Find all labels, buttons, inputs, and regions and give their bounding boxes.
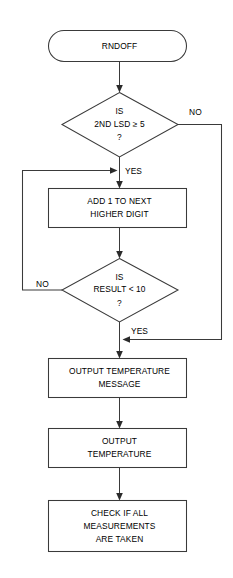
edge-label-lsd-yes: YES bbox=[125, 166, 142, 176]
node-process-add-line1: ADD 1 TO NEXT bbox=[87, 196, 151, 206]
edge-temp-to-check bbox=[116, 468, 123, 501]
node-start-label: RNDOFF bbox=[102, 41, 138, 51]
node-process-msg-line2: MESSAGE bbox=[98, 379, 140, 389]
node-process-check-line1: CHECK IF ALL bbox=[91, 508, 148, 518]
node-process-msg[interactable]: OUTPUT TEMPERATURE MESSAGE bbox=[49, 359, 187, 398]
flowchart-svg: RNDOFF IS 2ND LSD ≥ 5 ? NO YES ADD 1 TO … bbox=[0, 0, 233, 578]
node-process-add-line2: HIGHER DIGIT bbox=[90, 209, 148, 219]
edge-label-lsd-no: NO bbox=[189, 107, 202, 117]
edge-add-to-result bbox=[116, 228, 123, 259]
node-process-check-line2: MEASUREMENTS bbox=[84, 521, 156, 531]
edge-start-to-decision-lsd bbox=[116, 62, 123, 93]
node-process-temp-line1: OUTPUT bbox=[102, 436, 137, 446]
node-decision-result-line1: IS bbox=[115, 272, 123, 282]
flowchart-canvas: RNDOFF IS 2ND LSD ≥ 5 ? NO YES ADD 1 TO … bbox=[0, 0, 233, 578]
edge-label-result-yes: YES bbox=[131, 326, 148, 336]
edge-lsd-yes bbox=[116, 157, 123, 189]
node-process-add[interactable]: ADD 1 TO NEXT HIGHER DIGIT bbox=[49, 189, 187, 228]
node-decision-result-line3: ? bbox=[117, 298, 122, 308]
edge-label-result-no: NO bbox=[36, 279, 49, 289]
node-decision-result-line2: RESULT < 10 bbox=[93, 284, 145, 294]
node-decision-lsd-line2: 2ND LSD ≥ 5 bbox=[94, 119, 145, 129]
node-decision-lsd[interactable]: IS 2ND LSD ≥ 5 ? bbox=[62, 93, 178, 158]
node-start-terminator[interactable]: RNDOFF bbox=[49, 31, 187, 62]
node-decision-result[interactable]: IS RESULT < 10 ? bbox=[62, 259, 178, 323]
edge-result-yes bbox=[116, 322, 123, 359]
node-decision-lsd-line3: ? bbox=[117, 132, 122, 142]
node-process-temp-line2: TEMPERATURE bbox=[88, 449, 152, 459]
node-process-msg-line1: OUTPUT TEMPERATURE bbox=[69, 366, 170, 376]
node-process-check[interactable]: CHECK IF ALL MEASUREMENTS ARE TAKEN bbox=[49, 501, 187, 552]
node-decision-lsd-line1: IS bbox=[115, 106, 123, 116]
node-process-temp[interactable]: OUTPUT TEMPERATURE bbox=[49, 429, 187, 468]
node-process-check-line3: ARE TAKEN bbox=[96, 534, 144, 544]
edge-msg-to-temp bbox=[116, 397, 123, 429]
